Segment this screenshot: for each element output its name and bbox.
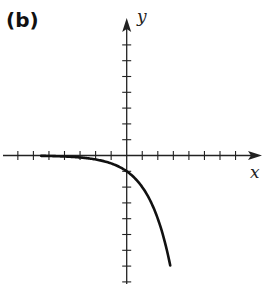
axes bbox=[3, 18, 262, 284]
y-axis-label: y bbox=[136, 6, 147, 26]
x-axis-label: x bbox=[250, 162, 260, 182]
chart-plot-area: x y bbox=[0, 0, 265, 287]
function-curve bbox=[41, 156, 170, 266]
